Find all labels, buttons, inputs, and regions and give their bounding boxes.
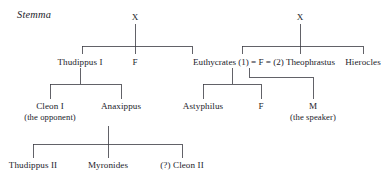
marriage-euthycrates-f-theophrastus: Euthycrates (1) = F = (2) Theophrastus [193,57,335,68]
node-m-speaker-label: M [309,101,317,111]
node-hierocles: Hierocles [345,57,381,68]
node-anaxippus: Anaxippus [101,101,141,112]
stemma-figure: Stemma X X Thudippus I F Euthycrates (1)… [0,0,392,196]
node-x-right: X [297,12,304,23]
node-cleon-i-gloss: (the opponent) [24,112,76,123]
node-f-left: F [132,57,137,68]
node-f-right: F [258,101,263,112]
node-m-speaker-gloss: (the speaker) [290,112,336,123]
node-cleon-i-label: Cleon I [36,101,64,111]
node-cleon-ii: (?) Cleon II [160,160,204,171]
figure-title: Stemma [17,9,51,20]
node-thudippus-i: Thudippus I [57,57,102,68]
node-cleon-i: Cleon I (the opponent) [24,101,76,122]
node-astyphilus: Astyphilus [183,101,223,112]
node-thudippus-ii: Thudippus II [9,160,57,171]
node-x-left: X [132,12,139,23]
node-m-speaker: M (the speaker) [290,101,336,122]
node-myronides: Myronides [88,160,128,171]
